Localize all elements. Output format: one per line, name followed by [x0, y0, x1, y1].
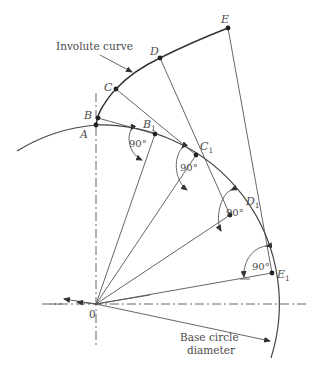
radius-O-E1-short	[96, 295, 150, 304]
base-circle-label-line2: diameter	[187, 344, 236, 356]
origin-label: 0	[89, 308, 96, 320]
angle-label-E1: 90°	[252, 261, 270, 272]
point-C1	[194, 153, 199, 158]
tangent-E1-E	[228, 28, 272, 273]
tangent-D1-D	[160, 58, 230, 215]
base-circle-label-line1: Base circle	[180, 331, 239, 343]
label-A: A	[79, 128, 88, 141]
tangent-C1-C	[116, 89, 196, 155]
involute-diagram: Involute curve A B C D E B1 C1 D1 E1 90°…	[0, 0, 326, 377]
involute-curve-label: Involute curve	[56, 40, 133, 52]
label-B: B	[83, 109, 92, 122]
point-E	[226, 26, 231, 31]
point-B	[96, 116, 101, 121]
label-E1: E1	[276, 268, 290, 283]
label-D1: D1	[245, 195, 260, 210]
label-E: E	[220, 13, 229, 26]
radius-O-B1	[96, 134, 155, 304]
angle-label-D1: 90°	[226, 207, 244, 218]
label-C: C	[104, 81, 113, 94]
radius-O-D1	[96, 215, 230, 304]
base-circle-arc	[17, 125, 279, 358]
label-D: D	[149, 45, 159, 58]
point-A	[94, 123, 99, 128]
point-C	[114, 87, 119, 92]
point-E1	[270, 271, 275, 276]
label-C1: C1	[200, 140, 213, 155]
angle-label-B1: 90°	[129, 138, 147, 149]
angle-label-C1: 90°	[180, 162, 198, 173]
radius-O-C1	[96, 155, 196, 304]
involute-label-pointer	[100, 55, 132, 72]
